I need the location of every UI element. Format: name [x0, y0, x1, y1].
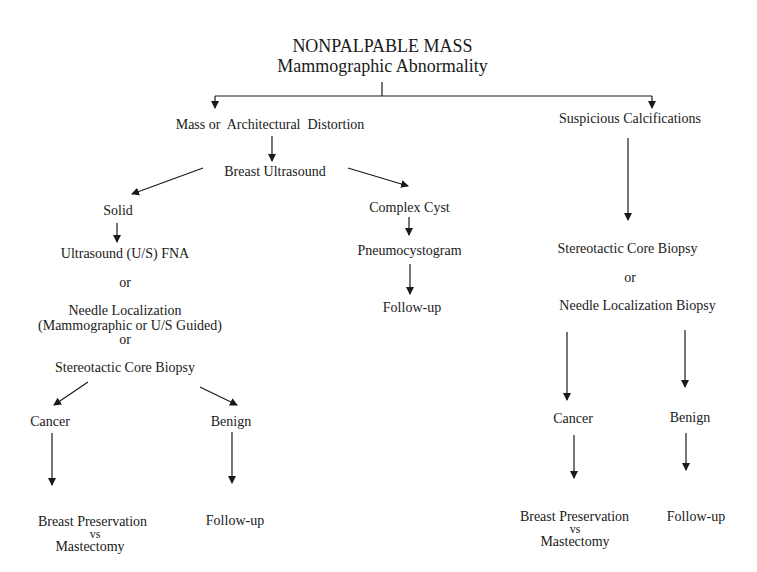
cancer-node-right: Cancer: [545, 411, 601, 426]
title-line-1: NONPALPABLE MASS: [255, 37, 510, 56]
solid-node: Solid: [90, 203, 146, 218]
benign-node-left: Benign: [203, 414, 259, 429]
complex-cyst-node: Complex Cyst: [362, 200, 457, 215]
title-line-2: Mammographic Abnormality: [255, 57, 510, 76]
follow-up-node-left: Follow-up: [195, 513, 275, 528]
breast-ultrasound-node: Breast Ultrasound: [205, 164, 345, 179]
stereotactic-core-biopsy-node: Stereotactic Core Biopsy: [35, 360, 215, 375]
or-label-2: or: [110, 332, 140, 347]
mastectomy-node-right: Mastectomy: [525, 534, 625, 549]
follow-up-node-cyst: Follow-up: [372, 300, 452, 315]
pneumocystogram-node: Pneumocystogram: [352, 243, 467, 258]
follow-up-node-right: Follow-up: [656, 509, 736, 524]
needle-localization-node: Needle Localization: [40, 303, 210, 318]
or-label-1: or: [110, 275, 140, 290]
us-fna-node: Ultrasound (U/S) FNA: [40, 246, 210, 261]
benign-node-right: Benign: [662, 410, 718, 425]
stereotactic-core-biopsy-node-right: Stereotactic Core Biopsy: [540, 241, 715, 256]
needle-localization-biopsy-node: Needle Localization Biopsy: [540, 298, 735, 313]
mastectomy-node-left: Mastectomy: [40, 539, 140, 554]
needle-localization-guidance: (Mammographic or U/S Guided): [20, 318, 240, 333]
mass-distortion-node: Mass or Architectural Distortion: [150, 117, 390, 132]
or-label-right: or: [615, 270, 645, 285]
suspicious-calcifications-node: Suspicious Calcifications: [540, 111, 720, 126]
cancer-node-left: Cancer: [22, 414, 78, 429]
